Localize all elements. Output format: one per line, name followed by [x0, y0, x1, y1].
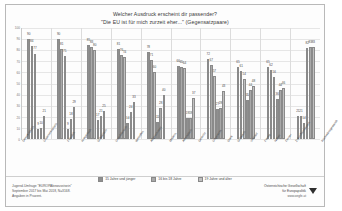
- y-axis: 0102030405060708090100: [10, 28, 21, 140]
- chart-title: Welcher Ausdruck erscheint dir passender…: [6, 5, 324, 25]
- x-category: WeltoffenAbgeschottet: [134, 140, 169, 174]
- bar-group: 90847791021: [22, 28, 52, 139]
- chart-footer: Jugend-Umfrage "EUROPAbewusstsein" Septe…: [6, 176, 324, 206]
- bar-slot[interactable]: 43: [222, 28, 225, 139]
- plot-grid: 9084779102190817591829858380172125817674…: [21, 28, 320, 140]
- bar-value-label: 83: [312, 41, 315, 44]
- y-tick-label: 50: [17, 82, 20, 86]
- y-tick-label: 100: [15, 26, 20, 30]
- bar-value-label: 43: [222, 85, 225, 88]
- bar-slot[interactable]: 48: [252, 28, 255, 139]
- bar-value-label: 33: [132, 96, 135, 99]
- x-axis-labels: DemokratischUndemokratischFriedlichKrieg…: [10, 140, 320, 174]
- bar-value-label: 21: [42, 110, 45, 113]
- bar-group: 656154354448: [231, 28, 261, 139]
- bar-slot[interactable]: 83: [312, 28, 315, 139]
- y-tick-label: 90: [17, 37, 20, 41]
- x-category: SolidarischUnsolidarisch: [96, 140, 133, 174]
- x-category: DemokratischUndemokratisch: [21, 140, 66, 174]
- chart-frame: Welcher Ausdruck erscheint dir passender…: [5, 4, 325, 207]
- chart-title-line1: Welcher Ausdruck erscheint dir passender…: [6, 11, 324, 18]
- bar-slot[interactable]: 33: [133, 28, 136, 139]
- org-name: Österreichische Gesellschaft für Europap…: [264, 184, 306, 198]
- y-tick-label: 20: [17, 116, 20, 120]
- bar-value-label: 25: [102, 105, 105, 108]
- source-note: Jugend-Umfrage "EUROPAbewusstsein" Septe…: [12, 184, 72, 198]
- bar-group: 656256364446: [261, 28, 291, 139]
- x-category: ModernAltmodisch: [168, 140, 197, 174]
- x-category: GerechtUngerecht: [197, 140, 226, 174]
- bar-group: 858380172125: [82, 28, 112, 139]
- bar-slot[interactable]: 37: [192, 28, 195, 139]
- bar-value-label: 40: [162, 89, 165, 92]
- bar-groups: 9084779102190817591829858380172125817674…: [22, 28, 320, 139]
- x-category: NäherFerner: [273, 140, 294, 174]
- y-tick-label: 30: [17, 104, 20, 108]
- y-tick-label: 70: [17, 60, 20, 64]
- x-category: VertrautFremd: [249, 140, 272, 174]
- bar-slot[interactable]: 46: [282, 28, 285, 139]
- bar-slot[interactable]: 29: [73, 28, 76, 139]
- oegfe-logo-icon: [309, 187, 318, 196]
- y-tick-label: 40: [17, 93, 20, 97]
- source-line-3: Angaben in Prozent.: [12, 194, 72, 199]
- y-tick-label: 10: [17, 127, 20, 131]
- chart-title-line2: "Die EU ist für mich zurzeit eher..." (G…: [6, 19, 324, 26]
- bar-slot[interactable]: 21: [43, 28, 46, 139]
- bar-value-label: 37: [192, 92, 195, 95]
- bar-slot[interactable]: 40: [163, 28, 166, 139]
- bar-value-label: 29: [72, 101, 75, 104]
- bar-value-label: 9: [67, 123, 69, 126]
- bar-slot[interactable]: 25: [103, 28, 106, 139]
- bar-value-label: 48: [252, 80, 255, 83]
- bar-group: 726757272843: [201, 28, 231, 139]
- y-tick-label: 60: [17, 71, 20, 75]
- org-website: www.oegfe.at: [264, 194, 306, 198]
- y-tick-label: 80: [17, 48, 20, 52]
- x-category: StarkSchwach: [226, 140, 249, 174]
- x-category: FriedlichKriegerisch: [66, 140, 97, 174]
- bar-group: 787160152840: [142, 28, 172, 139]
- bar-group: 817674142433: [112, 28, 142, 139]
- x-category: ZukunftsorientiertRückwärtsgewandt: [294, 140, 342, 174]
- bar-value-label: 46: [282, 82, 285, 85]
- bar[interactable]: [282, 88, 285, 139]
- bar-group: 666564191937: [172, 28, 202, 139]
- organization-branding: Österreichische Gesellschaft für Europap…: [264, 184, 318, 198]
